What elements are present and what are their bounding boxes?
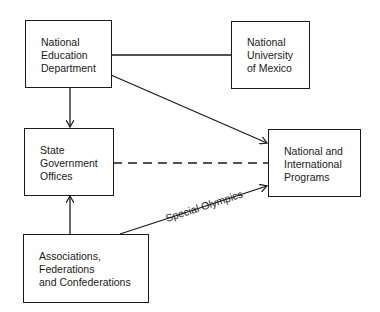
node-label: Associations, Federations and Confederat… [39,250,131,289]
node-label: National and International Programs [284,145,343,184]
node-label: National University of Mexico [247,36,293,75]
edge-label-special-olympics: Special Olympics [164,188,244,224]
node-label: State Government Offices [40,144,98,183]
node-national-university-of-mexico: National University of Mexico [231,21,310,89]
node-national-education-department: National Education Department [25,20,112,88]
node-national-international-programs: National and International Programs [268,129,361,197]
node-state-government-offices: State Government Offices [24,128,114,196]
node-label: National Education Department [41,36,96,75]
node-associations-federations-confederations: Associations, Federations and Confederat… [23,234,149,303]
